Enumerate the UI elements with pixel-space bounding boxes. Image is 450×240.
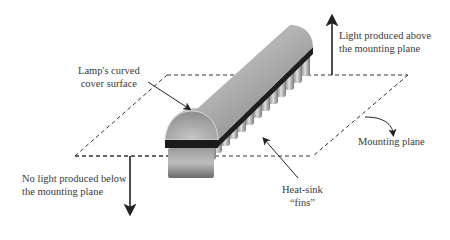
label-above-line1: Light produced above xyxy=(339,29,431,42)
label-below-line2: the mounting plane xyxy=(22,185,127,198)
label-cover-line1: Lamp's curved xyxy=(78,64,140,77)
label-above-line2: the mounting plane xyxy=(339,42,431,55)
label-fins-line1: Heat-sink xyxy=(282,183,323,196)
lamp-front-fin xyxy=(168,148,214,178)
label-mounting-plane: Mounting plane xyxy=(358,135,425,148)
label-light-above: Light produced above the mounting plane xyxy=(339,29,431,55)
pointer-cover xyxy=(148,82,188,108)
pointer-plane xyxy=(365,117,393,133)
label-fins-line2: “fins” xyxy=(282,196,323,209)
label-below-line1: No light produced below xyxy=(22,172,127,185)
label-no-light-below: No light produced below the mounting pla… xyxy=(22,172,127,198)
pointer-fins xyxy=(265,140,298,178)
label-heat-sink-fins: Heat-sink “fins” xyxy=(282,183,323,209)
lamp-front-base xyxy=(165,140,218,148)
label-cover-line2: cover surface xyxy=(78,77,140,90)
label-plane-line1: Mounting plane xyxy=(358,135,425,148)
label-cover-surface: Lamp's curved cover surface xyxy=(78,64,140,90)
